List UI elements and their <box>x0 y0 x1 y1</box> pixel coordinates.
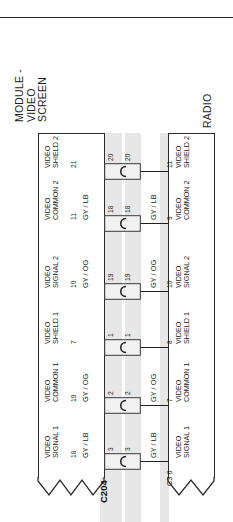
right-circuit-name-5: VIDEO COMMON 1 <box>175 362 191 402</box>
right-circuit-name-4-line-2: SHIELD 1 <box>183 312 191 344</box>
left-device-torn-edge <box>37 477 106 495</box>
left-circuit-name-5: VIDEO COMMON 1 <box>44 362 60 402</box>
right-circuit-name-3-line-2: SIGNAL 2 <box>183 256 191 288</box>
left-circuit-name-6-line-2: SIGNAL 1 <box>52 426 60 458</box>
connector-left-pin-6: 3 <box>107 447 114 451</box>
wire-segment-right-3 <box>140 291 169 292</box>
connector-symbol-1[interactable] <box>104 163 141 180</box>
right-circuit-name-5-line-2: COMMON 1 <box>183 362 191 402</box>
wire-segment-right-6 <box>140 461 169 462</box>
right-circuit-name-1-line-2: SHIELD 2 <box>183 136 191 168</box>
right-wire-color-2: GY / LB <box>150 194 158 220</box>
left-wire-color-6: GY / LB <box>82 432 90 458</box>
page-top-rule <box>0 17 233 18</box>
connector-left-pin-5: 2 <box>107 391 114 395</box>
left-wire-color-3: GY / OG <box>82 260 90 288</box>
right-wire-color-5: GY / OG <box>150 374 158 402</box>
left-wire-color-5: GY / OG <box>82 374 90 402</box>
connector-left-pin-4: 1 <box>107 333 114 337</box>
connector-symbol-5[interactable] <box>104 397 141 414</box>
connector-left-pin-1: 20 <box>107 154 114 161</box>
wire-segment-right-5 <box>140 405 169 406</box>
left-pin-number-6: 18 <box>70 451 77 458</box>
connector-label-c204: C204 <box>99 480 109 503</box>
connector-right-pin-4: 1 <box>124 333 131 337</box>
left-circuit-name-2: VIDEO COMMON 2 <box>44 180 60 220</box>
left-circuit-name-4: VIDEO SHIELD 1 <box>44 312 60 344</box>
left-circuit-name-3: VIDEO SIGNAL 2 <box>44 256 60 288</box>
left-device-title-line-3: SCREEN <box>37 69 49 122</box>
connector-label-c3-6: C3 6 <box>166 470 174 486</box>
left-pin-number-3: 10 <box>70 281 77 288</box>
connector-symbol-6[interactable] <box>104 453 141 470</box>
right-device-title-line-1: RADIO <box>202 94 214 128</box>
wire-segment-right-4 <box>140 347 169 348</box>
connector-right-pin-3: 19 <box>124 274 131 281</box>
right-pin-number-2: 9 <box>166 216 173 220</box>
right-wire-color-6: GY / LB <box>150 432 158 458</box>
left-circuit-name-2-line-2: COMMON 2 <box>52 180 60 220</box>
left-pin-number-4: 7 <box>70 340 77 344</box>
left-circuit-name-4-line-2: SHIELD 1 <box>52 312 60 344</box>
left-circuit-name-6: VIDEO SIGNAL 1 <box>44 426 60 458</box>
connector-right-pin-5: 2 <box>124 391 131 395</box>
left-circuit-name-1-line-2: SHIELD 2 <box>52 136 60 168</box>
right-pin-number-3: 10 <box>166 281 173 288</box>
right-device-torn-edge <box>167 477 216 495</box>
connector-symbol-4[interactable] <box>104 339 141 356</box>
right-circuit-name-2: VIDEO COMMON 2 <box>175 180 191 220</box>
left-device-title-line-1: MODULE - <box>14 69 26 122</box>
right-wire-color-3: GY / OG <box>150 260 158 288</box>
right-device-title: RADIO <box>202 94 214 128</box>
connector-right-pin-1: 20 <box>124 154 131 161</box>
left-circuit-name-5-line-2: COMMON 1 <box>52 362 60 402</box>
connector-symbol-2[interactable] <box>104 215 141 232</box>
right-circuit-name-4: VIDEO SHIELD 1 <box>175 312 191 344</box>
wire-segment-right-2 <box>140 223 169 224</box>
right-circuit-name-6: VIDEO SIGNAL 1 <box>175 426 191 458</box>
left-circuit-name-1: VIDEO SHIELD 2 <box>44 136 60 168</box>
connector-left-pin-2: 18 <box>107 206 114 213</box>
connector-right-pin-6: 3 <box>124 447 131 451</box>
left-wire-color-2: GY / LB <box>82 194 90 220</box>
right-circuit-name-1: VIDEO SHIELD 2 <box>175 136 191 168</box>
connector-right-pin-2: 18 <box>124 206 131 213</box>
right-pin-number-5: 7 <box>166 398 173 402</box>
left-device-title: MODULE - VIDEO SCREEN <box>14 69 49 122</box>
right-circuit-name-2-line-2: COMMON 2 <box>183 180 191 220</box>
right-pin-number-1: 11 <box>166 161 173 168</box>
right-pin-number-4: 8 <box>166 340 173 344</box>
left-pin-number-1: 21 <box>70 161 77 168</box>
right-circuit-name-3: VIDEO SIGNAL 2 <box>175 256 191 288</box>
left-pin-number-5: 19 <box>70 395 77 402</box>
connector-left-pin-3: 19 <box>107 274 114 281</box>
left-circuit-name-3-line-2: SIGNAL 2 <box>52 256 60 288</box>
connector-symbol-3[interactable] <box>104 283 141 300</box>
left-pin-number-2: 11 <box>70 213 77 220</box>
wire-segment-right-1 <box>140 171 169 172</box>
right-circuit-name-6-line-2: SIGNAL 1 <box>183 426 191 458</box>
